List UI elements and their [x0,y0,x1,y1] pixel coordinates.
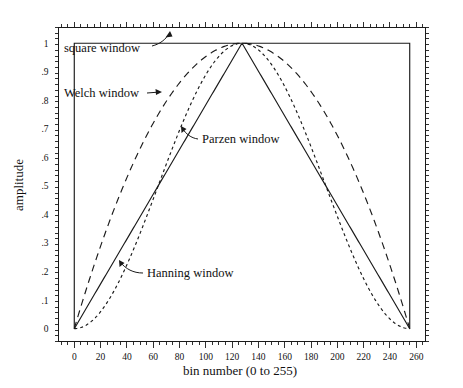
y-tick-label: .3 [41,238,48,248]
x-tick-label: 160 [278,352,293,362]
x-tick-label: 260 [409,352,424,362]
x-tick-label: 0 [72,352,77,362]
x-axis-title: bin number (0 to 255) [183,363,297,378]
y-tick-label: 1 [44,39,49,49]
y-tick-label: .2 [41,267,48,277]
annotation-hanning-window-label: Hanning window [147,266,233,280]
x-tick-label: 220 [357,352,372,362]
y-tick-label: .8 [41,96,48,106]
y-tick-label: .7 [41,124,48,134]
x-tick-label: 240 [383,352,398,362]
x-tick-label: 120 [225,352,240,362]
y-tick-label: 0 [44,324,49,334]
y-tick-label: .9 [41,67,48,77]
x-tick-label: 80 [175,352,185,362]
y-tick-label: .4 [41,210,48,220]
annotation-parzen-window-label: Parzen window [202,132,279,146]
x-tick-label: 100 [199,352,214,362]
x-tick-label: 60 [148,352,158,362]
y-tick-label: .6 [41,153,48,163]
x-tick-label: 200 [330,352,345,362]
x-tick-label: 140 [251,352,266,362]
chart-canvas: 0204060801001201401601802002202402600.1.… [0,0,463,388]
y-tick-label: .1 [41,296,48,306]
x-tick-label: 40 [122,352,132,362]
annotation-welch-window-label: Welch window [64,86,139,100]
figure-background [0,0,463,388]
window-functions-figure: 0204060801001201401601802002202402600.1.… [0,0,463,388]
x-tick-label: 20 [96,352,106,362]
annotation-square-window-label: square window [64,41,140,55]
y-axis-title: amplitude [11,159,26,211]
y-tick-label: .5 [41,181,48,191]
x-tick-label: 180 [304,352,319,362]
